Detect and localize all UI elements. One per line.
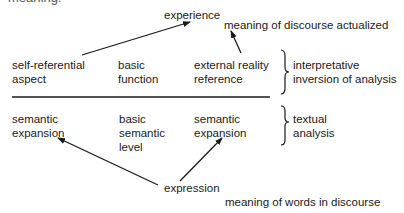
label-semantic-expansion-right: semantic expansion [194,112,246,140]
label-self-referential-aspect: self-referential aspect [12,58,85,86]
label-experience: experience [164,8,220,22]
label-meaning-of-discourse-actualized: meaning of discourse actualized [224,18,388,32]
label-external-reality-reference: external reality reference [194,58,269,86]
label-textual-analysis: textual analysis [293,112,335,140]
label-meaning-of-words-in-discourse: meaning of words in discourse [225,195,380,209]
label-semantic-expansion-left: semantic expansion [12,112,64,140]
arrow-external-to-discourse-meaning [231,31,241,53]
label-basic-semantic-level: basic semantic level [119,112,165,154]
label-interpretative-inversion: interpretative inversion of analysis [293,58,397,86]
brace-upper [281,50,289,94]
arrow-self-referential-to-experience [82,22,190,55]
label-expression: expression [164,181,220,195]
label-basic-function: basic function [118,58,158,86]
arrow-expression-to-right-expansion [180,138,222,181]
brace-lower [281,106,289,145]
